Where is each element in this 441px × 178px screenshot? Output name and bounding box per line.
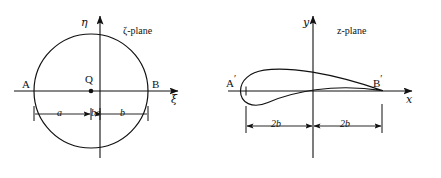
point-label-a-prime-text: A [226,77,234,89]
prime-mark-b: ′ [380,73,382,84]
figure-conformal-mapping: η ξ ζ-plane A Q B a be b y x z-plane A′ … [0,0,441,178]
x-axis-label: x [406,94,412,105]
zeta-plane-label: ζ-plane [123,26,152,36]
y-axis-label: y [303,17,309,28]
point-label-b: B [152,79,159,90]
dim-label-be: be [91,108,100,118]
prime-mark-a: ′ [234,73,236,84]
point-label-q: Q [85,74,93,85]
point-label-b-prime: B′ [373,74,383,89]
point-label-a: A [22,79,30,90]
z-plane-label: z-plane [337,26,366,36]
dim-label-2b-left: 2b [271,119,281,129]
airfoil-curve [241,69,383,105]
point-label-a-prime: A′ [226,74,236,89]
xi-axis-label: ξ [171,94,177,105]
eta-axis-label: η [81,17,88,28]
dim-label-b: b [120,108,125,118]
dim-label-a: a [57,108,62,118]
center-point-q [89,89,94,94]
figure-canvas [0,0,441,178]
z-plane-panel [228,16,412,158]
dim-label-2b-right: 2b [340,119,350,129]
